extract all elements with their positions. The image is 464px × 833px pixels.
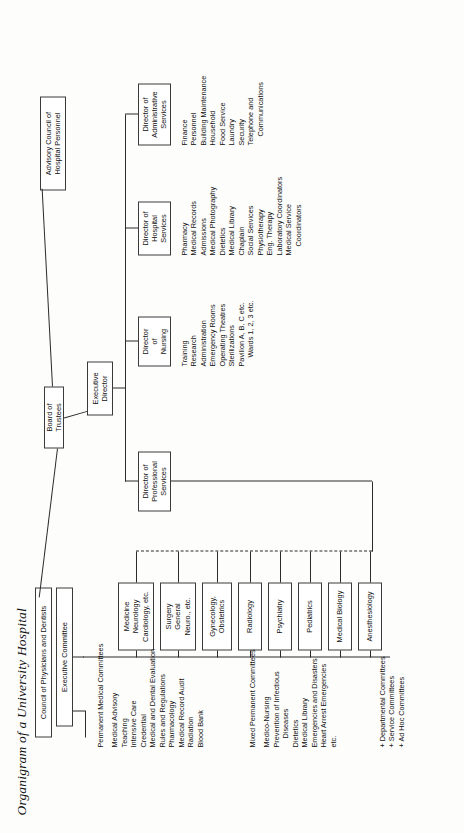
item-rules-regulations: Rules and Regulations	[158, 643, 167, 747]
link-directors-spine	[125, 114, 126, 481]
dept-box-medicine: Medicine Neurology Cardiology, etc.	[118, 582, 154, 650]
item-training: Training	[180, 300, 189, 366]
dept-radiology-l1: Radiology	[245, 600, 254, 633]
dept-box-radiology: Radiology	[238, 582, 262, 650]
node-exec-dir-label-2: Director	[100, 375, 109, 401]
item-intensive-care: Intensive Care	[129, 643, 138, 747]
dashed-stub-psychiatry	[280, 551, 281, 582]
item-telephone: Telephone and	[246, 75, 255, 145]
item-research: Research	[189, 300, 198, 366]
item-medical-record-audit: Medical Record Audit	[177, 643, 186, 747]
dept-surgery-l2: General	[173, 603, 182, 629]
item-etc-mixed: etc.	[329, 649, 338, 747]
dept-box-anesthesiology: Anesthesiology	[358, 582, 382, 650]
dept-box-medical-biology: Medical Biology	[328, 582, 352, 650]
dept-medicine-l1: Medicine	[122, 601, 131, 631]
node-dir-nursing-label-3: Nursing	[159, 328, 168, 353]
node-dir-prof-label-1: Director of	[141, 464, 150, 498]
item-wards: Wards 1, 2, 3 etc.	[246, 300, 255, 366]
item-dietetics: Dietetics	[218, 176, 227, 255]
node-board-label: Board of Trustees	[45, 389, 63, 445]
link-spine-to-professional	[125, 480, 138, 481]
dept-psychiatry-l1: Psychiatry	[275, 599, 284, 633]
item-administration: Administration	[199, 300, 208, 366]
link-prof-services-vert	[171, 480, 372, 481]
item-service-committees: + Service Committees	[387, 656, 396, 747]
dept-surgery-l3: Neuro., etc.	[183, 597, 192, 635]
item-departmental-committees: + Departmental Committees	[378, 656, 387, 747]
node-director-nursing: Director of Nursing	[138, 316, 171, 366]
node-board-of-trustees: Board of Trustees	[44, 386, 64, 448]
item-finance: Finance	[180, 75, 189, 145]
item-laundry: Laundry	[227, 75, 236, 145]
link-rail-medical-biology	[340, 650, 341, 657]
node-dir-hosp-label-2: Hospital	[150, 215, 159, 242]
organigram-canvas: Organigram of a University Hospital Boar…	[0, 0, 464, 833]
item-communications: Communications	[256, 75, 265, 145]
item-pavilion: Pavilion A, B, C etc.	[237, 300, 246, 366]
dashed-stub-medical-biology	[340, 551, 341, 582]
item-food-service: Food Service	[218, 75, 227, 145]
dept-box-gynecology: Gynecology, Obstetrics	[202, 582, 232, 650]
node-advisory-label-2: Hospital Personnel	[53, 112, 62, 174]
link-exec-committee-to-committees	[73, 710, 85, 711]
item-personnel: Personnel	[189, 75, 198, 145]
dashed-stub-anesthesiology	[370, 551, 371, 582]
node-executive-committee: Executive Committee	[56, 587, 73, 726]
item-sterilizations: Sterilizations	[227, 300, 236, 366]
node-dir-admin-label-2: Administrative	[150, 91, 159, 137]
dept-medicine-l3: Cardiology, etc.	[141, 591, 150, 642]
item-admissions: Admissions	[199, 176, 208, 255]
node-dir-hosp-label-3: Services	[159, 214, 168, 242]
item-chaplain: Chaplain	[237, 176, 246, 255]
item-credential: Credential	[139, 643, 148, 747]
link-rail-anesthesiology	[370, 650, 371, 657]
item-operating-theatres: Operating Theatres	[218, 300, 227, 366]
node-dir-prof-label-3: Services	[159, 467, 168, 495]
node-dir-admin-label-3: Services	[159, 100, 168, 128]
dept-medbio-l1: Medical Biology	[335, 590, 344, 642]
dashed-stub-gynecology	[217, 551, 218, 582]
dept-medicine-l2: Neurology	[131, 599, 140, 633]
node-director-professional-services: Director of Professional Services	[138, 451, 171, 511]
item-building-maintenance: Building Maintenance	[199, 75, 208, 145]
dashed-link-professional-rail	[136, 550, 372, 551]
item-eng-therapy: Eng. Therapy	[265, 176, 274, 255]
item-household: Household	[208, 75, 217, 145]
item-medical-library-mixed: Medical Library	[300, 649, 309, 747]
list-administrative-services: Finance Personnel Building Maintenance H…	[180, 75, 265, 145]
item-medical-records: Medical Records	[189, 176, 198, 255]
link-prof-services-down	[372, 481, 373, 551]
item-diseases: Diseases	[281, 649, 290, 747]
dept-box-psychiatry: Psychiatry	[268, 582, 292, 650]
link-rail-gynecology	[217, 650, 218, 657]
item-medical-photography: Medical Photography	[208, 176, 217, 255]
list-heading-mixed: Mixed Permanent Committees	[248, 649, 257, 747]
item-heart-arrest: Heart Arrest Emergencies	[319, 649, 328, 747]
link-committees-bracket	[85, 710, 86, 737]
dashed-stub-surgery	[178, 551, 179, 582]
node-dir-nursing-label-2: of	[150, 338, 159, 344]
list-nursing-services: Training Research Administration Emergen…	[180, 300, 256, 366]
link-exec-director-stub	[113, 387, 125, 388]
item-ad-hoc-committees: + Ad Hoc Committees	[397, 656, 406, 747]
link-board-to-advisory	[42, 188, 54, 386]
item-dietetics-mixed: Dietetics	[291, 649, 300, 747]
page-title: Organigram of a University Hospital	[14, 608, 30, 816]
item-pharmacy: Pharmacy	[180, 176, 189, 255]
node-executive-committee-label: Executive Committee	[60, 622, 69, 692]
list-heading-permanent: Permanent Medical Committees	[96, 643, 105, 747]
list-other-committees: + Departmental Committees + Service Comm…	[378, 656, 406, 747]
dept-box-pediatrics: Pediatrics	[298, 582, 322, 650]
node-dir-admin-label-1: Director of	[141, 97, 150, 131]
item-security: Security	[237, 75, 246, 145]
node-council-physicians-dentists: Council of Physicians and Dentists	[35, 587, 52, 737]
list-mixed-permanent-committees: Mixed Permanent Committees Medico-Nursin…	[248, 649, 338, 747]
dashed-stub-radiology	[250, 551, 251, 582]
organigram-page: Organigram of a University Hospital Boar…	[0, 0, 464, 833]
node-council-label: Council of Physicians and Dentists	[39, 605, 48, 718]
node-executive-director: Executive Director	[87, 361, 113, 415]
dept-box-surgery: Surgery General Neuro., etc.	[160, 582, 196, 650]
node-advisory-label-1: Advisory Council of	[44, 111, 53, 174]
dept-anesth-l1: Anesthesiology	[365, 591, 374, 641]
